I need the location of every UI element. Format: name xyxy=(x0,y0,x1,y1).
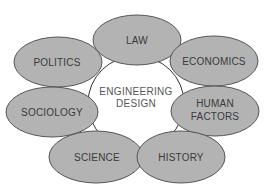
center-label-line2: DESIGN xyxy=(116,98,156,109)
node-science-label: SCIENCE xyxy=(74,152,120,163)
node-human-factors-label-line1: HUMAN xyxy=(196,98,234,109)
node-law-label: LAW xyxy=(126,35,148,46)
node-politics: POLITICS xyxy=(14,37,102,87)
node-human-factors: HUMAN FACTORS xyxy=(171,86,259,136)
node-sociology-label: SOCIOLOGY xyxy=(21,107,83,118)
node-human-factors-label-line2: FACTORS xyxy=(191,111,240,122)
node-sociology: SOCIOLOGY xyxy=(6,87,98,137)
node-history-label: HISTORY xyxy=(158,152,204,163)
center-label-line1: ENGINEERING xyxy=(99,86,172,97)
engineering-design-diagram: LAW POLITICS ECONOMICS SOCIOLOGY HUMAN F… xyxy=(0,0,273,194)
node-history: HISTORY xyxy=(137,131,225,183)
node-law: LAW xyxy=(93,15,181,65)
node-politics-label: POLITICS xyxy=(33,57,80,68)
node-economics: ECONOMICS xyxy=(170,36,258,86)
node-economics-label: ECONOMICS xyxy=(182,56,246,67)
node-science: SCIENCE xyxy=(49,131,143,183)
diagram-canvas: LAW POLITICS ECONOMICS SOCIOLOGY HUMAN F… xyxy=(0,0,273,194)
